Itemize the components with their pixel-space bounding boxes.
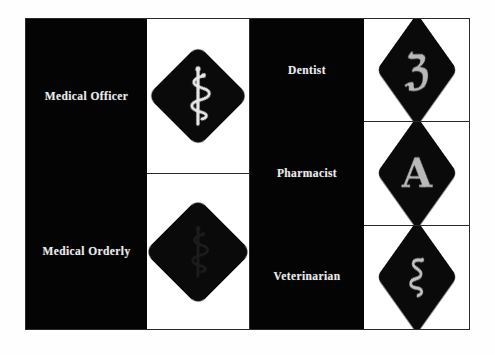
table-row-dentist-label: Dentist: [250, 19, 364, 122]
rod-of-asclepius-dark-icon: [147, 179, 249, 324]
label-pharmacist: Pharmacist: [277, 167, 337, 181]
insignia-figure: Medical Officer Medical Orderly: [0, 0, 495, 355]
fraktur-z-icon: ℨ: [364, 20, 469, 120]
insignia-table: Medical Officer Medical Orderly: [25, 18, 470, 330]
fraktur-z-glyph: ℨ: [404, 50, 429, 91]
rod-of-asclepius-dark-glyph: [185, 225, 211, 279]
officers-figure-column: [147, 19, 250, 329]
fraktur-a-glyph: A: [401, 153, 431, 194]
serpent-glyph: [404, 254, 429, 301]
badge-cell-pharmacist: A: [364, 122, 469, 225]
fraktur-a-icon: A: [364, 123, 469, 223]
badge-cell-medical-officer: [147, 19, 249, 174]
badge-cell-veterinarian: [364, 226, 469, 329]
label-medical-orderly: Medical Orderly: [42, 245, 130, 259]
specialists-figure-column: ℨ A: [364, 19, 469, 329]
table-row-veterinarian-label: Veterinarian: [250, 226, 364, 329]
rod-of-asclepius-light-icon: [147, 26, 249, 166]
label-medical-officer: Medical Officer: [45, 90, 129, 104]
label-dentist: Dentist: [288, 64, 326, 78]
table-row-medical-orderly-label: Medical Orderly: [26, 174, 147, 329]
specialists-label-column: Dentist Pharmacist Veterinarian: [250, 19, 364, 329]
badge-cell-dentist: ℨ: [364, 19, 469, 122]
badge-cell-medical-orderly: [147, 174, 249, 329]
officers-label-column: Medical Officer Medical Orderly: [26, 19, 147, 329]
table-row-medical-officer-label: Medical Officer: [26, 19, 147, 174]
label-veterinarian: Veterinarian: [274, 270, 341, 284]
table-row-pharmacist-label: Pharmacist: [250, 122, 364, 225]
serpent-icon: [364, 227, 469, 327]
rod-of-asclepius-glyph: [183, 65, 213, 127]
